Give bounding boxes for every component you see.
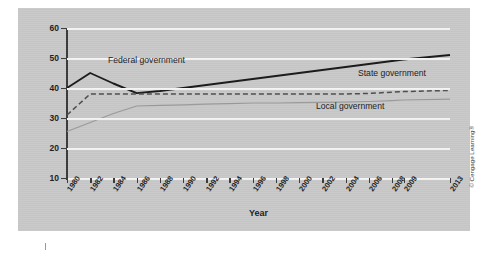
y-tick-30 (61, 118, 67, 119)
series-label-federal-government: Federal government (108, 55, 185, 65)
series-lines (67, 28, 450, 179)
y-tick-label-10: 10 (37, 173, 59, 183)
gridline-y-20 (67, 148, 450, 150)
y-tick-60 (61, 28, 67, 29)
copyright-credit: © Cengage Learning® (468, 126, 475, 188)
series-label-state-government: State government (358, 68, 426, 78)
plot-area: 1020304050601980198219841986198819901992… (67, 28, 450, 178)
gridline-y-60 (67, 28, 450, 30)
y-tick-20 (61, 148, 67, 149)
gridline-y-30 (67, 118, 450, 120)
line-local-government (67, 99, 450, 131)
y-tick-label-50: 50 (37, 53, 59, 63)
series-label-local-government: Local government (316, 101, 384, 111)
x-tick-label-2013: 2013 (448, 174, 465, 193)
y-tick-40 (61, 88, 67, 89)
y-tick-label-60: 60 (37, 23, 59, 33)
gridline-y-40 (67, 88, 450, 90)
x-axis-title: Year (67, 208, 450, 218)
y-tick-label-40: 40 (37, 83, 59, 93)
y-tick-label-20: 20 (37, 143, 59, 153)
chart-figure: Mean Number of Cents per Dollar Wasted 1… (0, 0, 493, 253)
y-tick-50 (61, 58, 67, 59)
chart-panel: Mean Number of Cents per Dollar Wasted 1… (18, 8, 470, 231)
page-tick-mark (45, 243, 46, 250)
y-tick-label-30: 30 (37, 113, 59, 123)
